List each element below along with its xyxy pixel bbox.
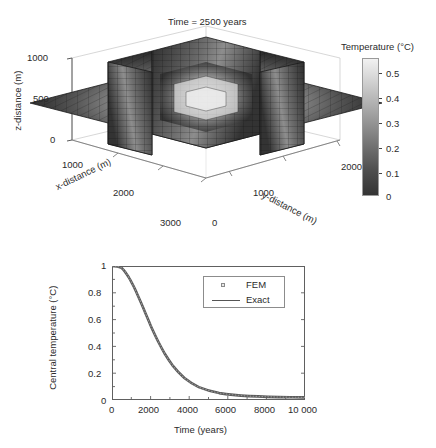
decay-x-axis-label: Time (years) bbox=[174, 425, 227, 435]
exact-line-icon bbox=[212, 300, 240, 301]
colorbar-tick-mark bbox=[379, 98, 382, 99]
colorbar: 0.5 0.4 0.3 0.2 0.1 0 bbox=[362, 58, 379, 196]
x-tick-3000: 3000 bbox=[160, 218, 181, 228]
legend-label-fem: FEM bbox=[246, 277, 266, 293]
colorbar-label-0_3: 0.3 bbox=[386, 118, 399, 129]
legend-item-fem: FEM bbox=[204, 277, 284, 293]
z-tick-1000: 1000 bbox=[27, 53, 48, 63]
colorbar-label-0_4: 0.4 bbox=[386, 93, 399, 104]
colorbar-tick-mark bbox=[379, 123, 382, 124]
surface-3d-panel: Time = 2500 years bbox=[0, 0, 436, 250]
fem-marker-icon bbox=[221, 283, 225, 287]
x-tick-2000: 2000 bbox=[113, 188, 134, 198]
decay-x-tick-2000: 2000 bbox=[138, 405, 159, 415]
decay-y-axis-label: Central temperature (°C) bbox=[48, 278, 58, 398]
colorbar-label-0: 0 bbox=[386, 191, 391, 202]
z-axis-label: z-distance (m) bbox=[13, 66, 23, 136]
decay-x-tick-8000: 8000 bbox=[254, 405, 275, 415]
hot-core-region bbox=[160, 62, 252, 132]
decay-x-tick-6000: 6000 bbox=[215, 405, 236, 415]
figure-root: Time = 2500 years bbox=[0, 0, 436, 448]
decay-y-tick-0: 0 bbox=[101, 396, 106, 406]
colorbar-label-0_1: 0.1 bbox=[386, 168, 399, 179]
decay-x-tick-0: 0 bbox=[109, 405, 114, 415]
colorbar-label-0_2: 0.2 bbox=[386, 143, 399, 154]
y-tick-0: 0 bbox=[212, 218, 217, 228]
decay-y-tick-0_8: 0.8 bbox=[88, 288, 101, 298]
legend-item-exact: Exact bbox=[204, 292, 284, 308]
decay-y-tick-1: 1 bbox=[101, 261, 106, 271]
z-tick-500: 500 bbox=[33, 94, 49, 104]
colorbar-tick-mark bbox=[379, 148, 382, 149]
colorbar-title: Temperature (°C) bbox=[341, 41, 414, 52]
legend: FEM Exact bbox=[203, 276, 285, 308]
decay-x-tick-10000: 10 000 bbox=[288, 405, 317, 415]
decay-curve-panel: FEM Exact 0 0.2 0.4 0.6 0.8 1 Central te… bbox=[0, 250, 436, 448]
colorbar-gradient bbox=[362, 58, 379, 196]
colorbar-label-0_5: 0.5 bbox=[386, 68, 399, 79]
colorbar-tick-mark bbox=[379, 73, 382, 74]
z-tick-0: 0 bbox=[50, 135, 55, 145]
colorbar-tick-mark bbox=[379, 173, 382, 174]
y-tick-2000: 2000 bbox=[341, 162, 362, 172]
legend-label-exact: Exact bbox=[246, 292, 270, 308]
decay-x-tick-4000: 4000 bbox=[177, 405, 198, 415]
decay-y-tick-0_6: 0.6 bbox=[88, 315, 101, 325]
decay-y-tick-0_4: 0.4 bbox=[88, 342, 101, 352]
decay-y-tick-0_2: 0.2 bbox=[88, 369, 101, 379]
